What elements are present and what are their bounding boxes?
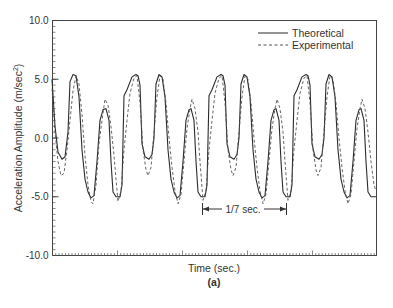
y-tick-label: 10.0: [29, 15, 49, 26]
panel-label: (a): [208, 276, 221, 288]
x-axis-minor-ticks: [53, 251, 375, 256]
legend-label-theoretical: Theoretical: [292, 27, 344, 39]
experimental-series-line: [52, 76, 376, 204]
y-axis-title: Acceleration Amplitude (m/sec2): [12, 64, 24, 213]
arrow-left-icon: [203, 207, 209, 212]
legend-label-experimental: Experimental: [292, 39, 353, 51]
x-axis-title: Time (sec.): [188, 262, 240, 274]
arrow-right-icon: [280, 207, 286, 212]
y-tick-label: -10.0: [26, 250, 49, 261]
plot-frame: [53, 21, 377, 256]
y-axis-tick-labels: 10.05.00.0-5.0-10.0: [26, 15, 59, 261]
y-tick-label: -5.0: [31, 191, 49, 202]
legend: Theoretical Experimental: [258, 27, 353, 51]
y-tick-label: 5.0: [35, 74, 49, 85]
period-annotation: 1/7 sec.: [203, 203, 287, 215]
y-tick-label: 0.0: [35, 133, 49, 144]
period-label: 1/7 sec.: [225, 204, 260, 215]
acceleration-chart: 10.05.00.0-5.0-10.0 Theoretical Experime…: [0, 0, 393, 308]
